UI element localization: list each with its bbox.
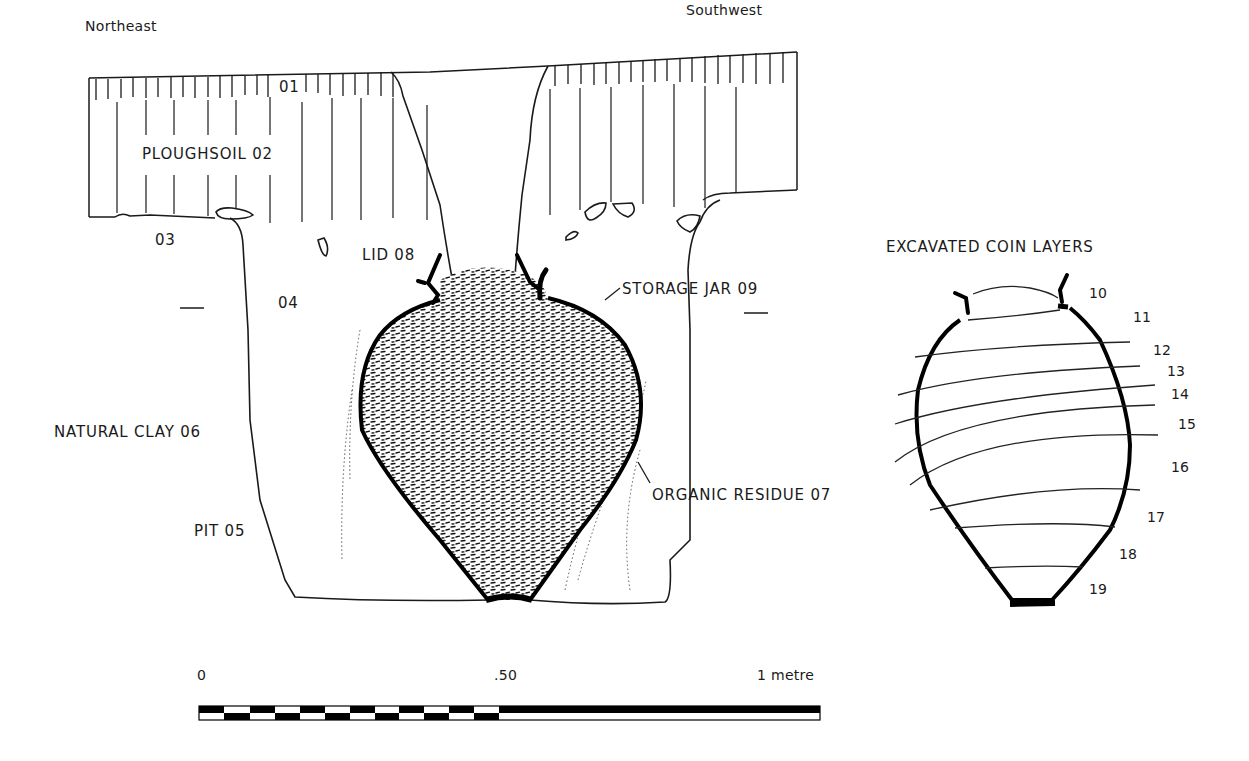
- layer-label-ploughsoil: PLOUGHSOIL 02: [142, 147, 273, 162]
- section-drawing: [0, 0, 1249, 761]
- coin-layer-10: 10: [1089, 286, 1107, 300]
- coin-layer-18: 18: [1119, 547, 1137, 561]
- layer-label-lid: LID 08: [362, 248, 415, 263]
- layer-label-pit: PIT 05: [194, 524, 245, 539]
- layer-label-04: 04: [278, 296, 299, 311]
- layer-label-01: 01: [279, 80, 300, 95]
- leader-organic-residue: [638, 462, 650, 483]
- scale-label-metre: 1 metre: [757, 668, 814, 682]
- leader-storage-jar: [605, 288, 620, 300]
- coin-jar-title: EXCAVATED COIN LAYERS: [886, 240, 1094, 255]
- layer-label-03: 03: [155, 233, 176, 248]
- coin-layer-15: 15: [1178, 417, 1196, 431]
- ploughsoil-layer: [89, 52, 797, 223]
- coin-layer-16: 16: [1171, 460, 1189, 474]
- stones: [216, 203, 700, 256]
- layer-label-organic-residue: ORGANIC RESIDUE 07: [652, 488, 831, 503]
- coin-layer-13: 13: [1167, 364, 1185, 378]
- layer-label-natural-clay: NATURAL CLAY 06: [54, 425, 201, 440]
- coin-layer-12: 12: [1153, 343, 1171, 357]
- coin-layer-19: 19: [1089, 582, 1107, 596]
- orientation-northeast: Northeast: [85, 19, 157, 33]
- storage-jar: [360, 255, 641, 600]
- scale-label-half: .50: [494, 668, 517, 682]
- scale-bar: [199, 706, 820, 720]
- coin-layer-11: 11: [1133, 310, 1151, 324]
- scale-label-zero: 0: [197, 668, 206, 682]
- coin-layer-17: 17: [1147, 510, 1165, 524]
- coin-layer-14: 14: [1171, 387, 1189, 401]
- layer-label-storage-jar: STORAGE JAR 09: [622, 282, 758, 297]
- orientation-southwest: Southwest: [686, 3, 762, 17]
